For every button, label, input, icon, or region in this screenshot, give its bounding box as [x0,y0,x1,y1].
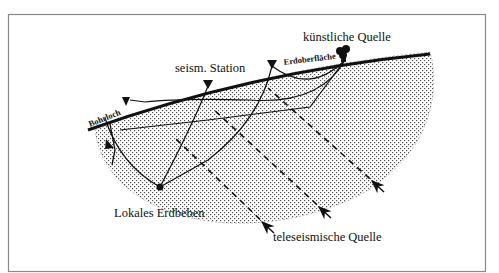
station-triangle-icon [122,97,130,106]
seismic-ray-diagram: künstliche Quelle Erdoberfläche seism. S… [0,0,499,273]
label-artificial-source: künstliche Quelle [303,30,391,44]
station-triangle-icon [203,80,213,89]
label-earth-surface: Erdoberfläche [283,51,336,67]
station-triangle-icon [267,60,277,69]
label-local-quake: Lokales Erdbeben [114,206,205,220]
label-seismic-station: seism. Station [175,61,246,75]
earth-shading [95,52,434,223]
explosion-icon [336,45,350,62]
label-teleseismic-source: teleseismische Quelle [273,230,382,244]
earthquake-dot-icon [157,184,164,191]
